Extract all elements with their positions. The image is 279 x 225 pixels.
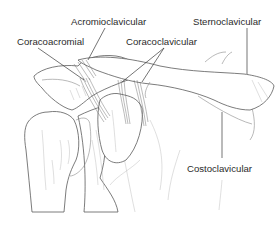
coracoid-process bbox=[98, 93, 143, 162]
anatomy-illustration bbox=[0, 0, 279, 225]
label-coracoclavicular: Coracoclavicular bbox=[126, 37, 197, 47]
label-costoclavicular: Costoclavicular bbox=[187, 164, 252, 174]
label-coracoacromial: Coracoacromial bbox=[17, 37, 84, 47]
label-acromioclavicular: Acromioclavicular bbox=[71, 17, 146, 27]
leader-acromioclavicular bbox=[88, 28, 105, 60]
label-sternoclavicular: Sternoclavicular bbox=[193, 17, 261, 27]
shoulder-ligament-diagram: Acromioclavicular Sternoclavicular Corac… bbox=[0, 0, 279, 225]
